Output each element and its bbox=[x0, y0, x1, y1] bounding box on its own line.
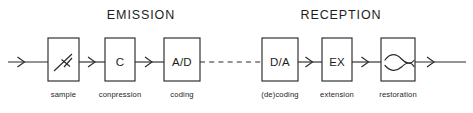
caption-compression: conpression bbox=[99, 90, 142, 99]
caption-coding: coding bbox=[170, 90, 193, 99]
caption-restoration: restoration bbox=[379, 90, 417, 99]
block-label-compression: C bbox=[116, 56, 125, 68]
section-title-emission: EMISSION bbox=[107, 8, 175, 22]
block-label-decoding: D/A bbox=[270, 56, 290, 68]
caption-sample: sample bbox=[51, 90, 76, 99]
block-label-coding: A/D bbox=[172, 56, 192, 68]
section-title-reception: RECEPTION bbox=[300, 8, 381, 22]
caption-decoding: (de)coding bbox=[261, 90, 298, 99]
block-label-extension: EX bbox=[329, 56, 345, 68]
caption-extension: extension bbox=[320, 90, 354, 99]
block-diagram-figure: EMISSION RECEPTION C bbox=[0, 0, 473, 113]
block-box-sample[interactable] bbox=[48, 38, 79, 81]
diagram-canvas: EMISSION RECEPTION C bbox=[0, 0, 473, 113]
